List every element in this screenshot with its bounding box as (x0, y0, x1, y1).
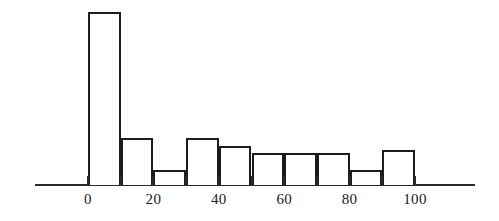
x-axis-tick (152, 176, 154, 185)
x-axis-tick-label: 100 (403, 192, 426, 207)
x-axis-minor-tick (251, 176, 253, 185)
histogram-bar (284, 153, 317, 185)
x-axis-tick-label: 80 (342, 192, 358, 207)
x-axis-tick-label: 60 (276, 192, 292, 207)
x-axis-tick (283, 176, 285, 185)
histogram-bar (317, 153, 350, 185)
histogram-bar (153, 170, 186, 185)
histogram-bar (121, 138, 154, 185)
x-axis-tick-label: 40 (211, 192, 227, 207)
histogram-bar (382, 150, 415, 185)
x-axis-tick-label: 0 (84, 192, 92, 207)
x-axis-tick (349, 176, 351, 185)
histogram-bar (350, 170, 383, 185)
x-axis-minor-tick (316, 176, 318, 185)
x-axis-minor-tick (185, 176, 187, 185)
histogram-bar (186, 138, 219, 185)
histogram-figure: 020406080100 (0, 0, 499, 221)
plot-area: 020406080100 (0, 0, 499, 221)
x-axis-tick (218, 176, 220, 185)
histogram-bar (88, 12, 121, 185)
x-axis-minor-tick (120, 176, 122, 185)
x-axis-tick (414, 176, 416, 185)
x-axis-tick (87, 176, 89, 185)
histogram-bar (219, 146, 252, 185)
x-axis-minor-tick (381, 176, 383, 185)
histogram-bar (252, 153, 285, 185)
x-axis-tick-label: 20 (146, 192, 162, 207)
